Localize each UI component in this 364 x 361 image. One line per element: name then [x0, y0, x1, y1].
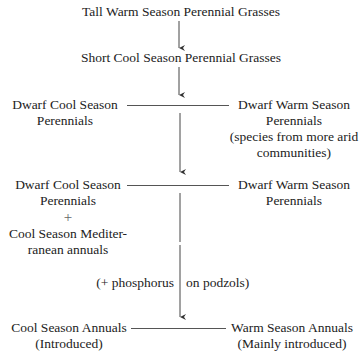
- node-dwarf-cool-plus-mediterranean-annuals: Dwarf Cool Season Perennials + Cool Seas…: [9, 177, 127, 258]
- node-line: Perennials: [12, 113, 118, 129]
- node-line: Warm Season Annuals: [231, 320, 353, 336]
- node-line: (Mainly introduced): [231, 336, 353, 352]
- annotation-podzols: on podzols): [186, 275, 249, 291]
- node-dwarf-warm-season-perennials-arid: Dwarf Warm Season Perennials (species fr…: [230, 97, 359, 161]
- node-tall-warm-season-perennial-grasses: Tall Warm Season Perennial Grasses: [82, 4, 280, 20]
- node-line: Cool Season Mediter-: [9, 226, 127, 242]
- node-warm-season-annuals: Warm Season Annuals (Mainly introduced): [231, 320, 353, 352]
- node-cool-season-annuals: Cool Season Annuals (Introduced): [11, 320, 127, 352]
- node-line: Perennials: [230, 113, 359, 129]
- node-dwarf-cool-season-perennials: Dwarf Cool Season Perennials: [12, 97, 118, 129]
- node-short-cool-season-perennial-grasses: Short Cool Season Perennial Grasses: [81, 50, 281, 66]
- node-line: ranean annuals: [9, 242, 127, 258]
- node-line: Perennials: [9, 193, 127, 209]
- node-line: Perennials: [238, 193, 350, 209]
- node-line: Dwarf Cool Season: [9, 177, 127, 193]
- node-line: communities): [230, 145, 359, 161]
- node-line: Dwarf Cool Season: [12, 97, 118, 113]
- node-line: Dwarf Warm Season: [238, 177, 350, 193]
- node-line: Cool Season Annuals: [11, 320, 127, 336]
- node-dwarf-warm-season-perennials: Dwarf Warm Season Perennials: [238, 177, 350, 209]
- plus-sign: +: [9, 209, 127, 226]
- node-line: Dwarf Warm Season: [230, 97, 359, 113]
- node-line: (Introduced): [11, 336, 127, 352]
- node-line: (species from more arid: [230, 129, 359, 145]
- annotation-phosphorus: (+ phosphorus: [96, 275, 174, 291]
